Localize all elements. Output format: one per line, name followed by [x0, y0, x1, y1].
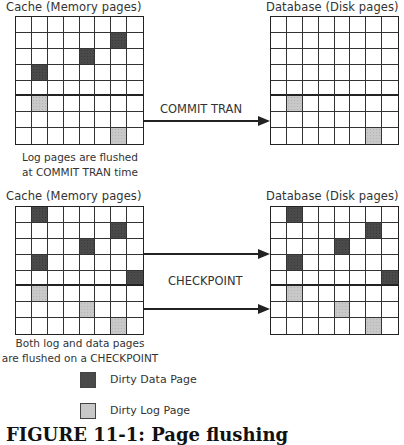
page-cell-clean	[64, 81, 80, 97]
page-cell-clean	[303, 112, 319, 128]
page-cell-clean	[48, 96, 64, 112]
page-cell-clean	[350, 96, 366, 112]
page-cell-clean	[32, 81, 48, 97]
page-cell-clean	[111, 207, 127, 223]
page-cell-clean	[287, 128, 303, 144]
page-cell-clean	[48, 318, 64, 334]
page-cell-clean	[319, 33, 335, 49]
page-cell-clean	[95, 17, 111, 33]
page-cell-clean	[366, 33, 382, 49]
bottom-cache-grid	[15, 206, 144, 335]
page-cell-clean	[335, 96, 351, 112]
commit-tran-arrow	[144, 120, 268, 122]
page-cell-clean	[111, 81, 127, 97]
top-caption-line-1: Log pages are flushed	[15, 150, 145, 165]
page-cell-clean	[366, 81, 382, 97]
page-cell-clean	[350, 81, 366, 97]
page-cell-clean	[366, 112, 382, 128]
page-cell-clean	[319, 318, 335, 334]
page-cell-clean	[16, 17, 32, 33]
page-cell-clean	[95, 33, 111, 49]
page-cell-clean	[366, 302, 382, 318]
page-cell-clean	[127, 33, 143, 49]
page-cell-clean	[80, 318, 96, 334]
page-cell-clean	[127, 65, 143, 81]
page-cell-clean	[382, 112, 398, 128]
page-cell-clean	[111, 302, 127, 318]
page-cell-clean	[16, 271, 32, 287]
top-cache-grid	[15, 16, 144, 145]
page-cell-clean	[80, 255, 96, 271]
page-cell-clean	[271, 286, 287, 302]
page-cell-clean	[127, 302, 143, 318]
page-cell-clean	[303, 96, 319, 112]
page-cell-dirty-data	[80, 49, 96, 65]
page-cell-clean	[335, 33, 351, 49]
page-cell-dirty-data	[32, 65, 48, 81]
page-cell-clean	[127, 128, 143, 144]
page-cell-clean	[319, 17, 335, 33]
page-cell-clean	[16, 223, 32, 239]
page-cell-clean	[287, 239, 303, 255]
page-cell-clean	[95, 271, 111, 287]
page-cell-clean	[271, 271, 287, 287]
page-cell-dirty-data	[382, 271, 398, 287]
page-cell-clean	[64, 271, 80, 287]
page-cell-dirty-data	[111, 223, 127, 239]
page-cell-clean	[48, 33, 64, 49]
page-cell-dirty-log	[287, 286, 303, 302]
checkpoint-arrow-log	[144, 308, 268, 310]
page-cell-clean	[319, 223, 335, 239]
page-cell-clean	[335, 112, 351, 128]
page-cell-clean	[16, 302, 32, 318]
page-cell-clean	[32, 128, 48, 144]
page-cell-clean	[382, 81, 398, 97]
page-cell-dirty-data	[127, 271, 143, 287]
dirty-log-page-swatch	[80, 403, 96, 419]
page-cell-clean	[350, 128, 366, 144]
page-cell-clean	[111, 271, 127, 287]
page-cell-dirty-log	[366, 128, 382, 144]
page-cell-clean	[127, 286, 143, 302]
page-cell-clean	[16, 255, 32, 271]
page-cell-clean	[16, 96, 32, 112]
page-cell-clean	[303, 223, 319, 239]
page-cell-clean	[32, 33, 48, 49]
page-cell-dirty-log	[111, 318, 127, 334]
page-cell-clean	[95, 286, 111, 302]
page-cell-clean	[287, 223, 303, 239]
page-cell-clean	[271, 33, 287, 49]
page-cell-dirty-data	[32, 255, 48, 271]
page-cell-clean	[335, 286, 351, 302]
page-cell-clean	[382, 49, 398, 65]
top-database-grid	[270, 16, 399, 145]
page-cell-clean	[111, 49, 127, 65]
page-cell-dirty-log	[80, 302, 96, 318]
figure-caption: FIGURE 11-1: Page flushing	[6, 424, 288, 445]
page-cell-clean	[48, 65, 64, 81]
page-cell-clean	[111, 239, 127, 255]
page-cell-clean	[335, 207, 351, 223]
page-cell-clean	[48, 271, 64, 287]
page-cell-clean	[271, 65, 287, 81]
page-cell-clean	[271, 128, 287, 144]
page-cell-clean	[335, 65, 351, 81]
page-cell-clean	[32, 17, 48, 33]
page-cell-clean	[64, 318, 80, 334]
page-cell-clean	[303, 17, 319, 33]
page-cell-clean	[271, 255, 287, 271]
page-cell-clean	[80, 33, 96, 49]
page-cell-clean	[95, 81, 111, 97]
page-cell-clean	[48, 112, 64, 128]
page-cell-clean	[303, 271, 319, 287]
page-cell-clean	[319, 65, 335, 81]
page-cell-clean	[287, 81, 303, 97]
page-cell-clean	[64, 17, 80, 33]
page-cell-clean	[335, 128, 351, 144]
page-cell-clean	[32, 239, 48, 255]
page-cell-clean	[80, 271, 96, 287]
page-cell-clean	[350, 207, 366, 223]
page-cell-dirty-log	[335, 302, 351, 318]
page-cell-clean	[48, 223, 64, 239]
page-cell-clean	[48, 49, 64, 65]
